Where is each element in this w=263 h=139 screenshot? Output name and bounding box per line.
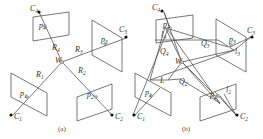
ray-r2 <box>62 62 112 115</box>
label-p1: p1 <box>144 88 152 98</box>
label-c2: C2 <box>240 112 248 122</box>
label-p4: p4 <box>38 21 46 31</box>
label-line-l: L <box>159 76 165 85</box>
label-r2: R2 <box>77 66 86 76</box>
label-r4: R4 <box>51 43 60 53</box>
label-r1: R1 <box>35 70 44 80</box>
label-c3: C3 <box>247 26 255 36</box>
figure: C4 C3 C1 C2 p4 p3 p1 p2 W R4 R3 R1 R2 (a… <box>0 0 263 139</box>
panel-b: C4 C3 C1 C2 p4 p3 p1 p2 l4 l3 l2 Q4 Q3 Q… <box>132 3 255 133</box>
camera-c2 <box>110 113 113 116</box>
image-plane-3 <box>92 20 122 72</box>
label-c4: C4 <box>30 4 38 14</box>
point-p3 <box>230 44 233 47</box>
label-p3: p3 <box>100 35 108 45</box>
camera-c1 <box>132 113 135 116</box>
label-q2: Q2 <box>179 77 188 87</box>
camera-c2 <box>235 113 238 116</box>
camera-c3 <box>124 35 127 38</box>
label-q3: Q3 <box>201 39 210 49</box>
label-c4: C4 <box>152 3 160 13</box>
ray-c2-b <box>220 96 236 115</box>
label-q4: Q4 <box>160 47 169 57</box>
label-c2: C2 <box>115 112 123 122</box>
image-plane-2 <box>77 84 112 121</box>
label-c3: C3 <box>119 25 127 35</box>
line-l <box>133 29 168 115</box>
label-p4: p4 <box>162 20 170 30</box>
label-c1: C1 <box>14 112 22 122</box>
point-p2 <box>95 96 98 99</box>
label-r3: R3 <box>74 45 83 55</box>
caption-a: (a) <box>58 125 66 133</box>
point-p2 <box>217 95 220 98</box>
label-p3: p3 <box>228 35 236 45</box>
label-l3: l3 <box>235 47 240 57</box>
panel-a: C4 C3 C1 C2 p4 p3 p1 p2 W R4 R3 R1 R2 (a… <box>9 4 127 133</box>
label-p1: p1 <box>19 89 27 99</box>
caption-b: (b) <box>182 125 191 133</box>
camera-c4 <box>160 9 163 12</box>
label-c1: C1 <box>137 112 145 122</box>
ray-r3 <box>62 38 126 62</box>
ray-c2-c <box>224 94 236 115</box>
camera-c1 <box>9 113 12 116</box>
